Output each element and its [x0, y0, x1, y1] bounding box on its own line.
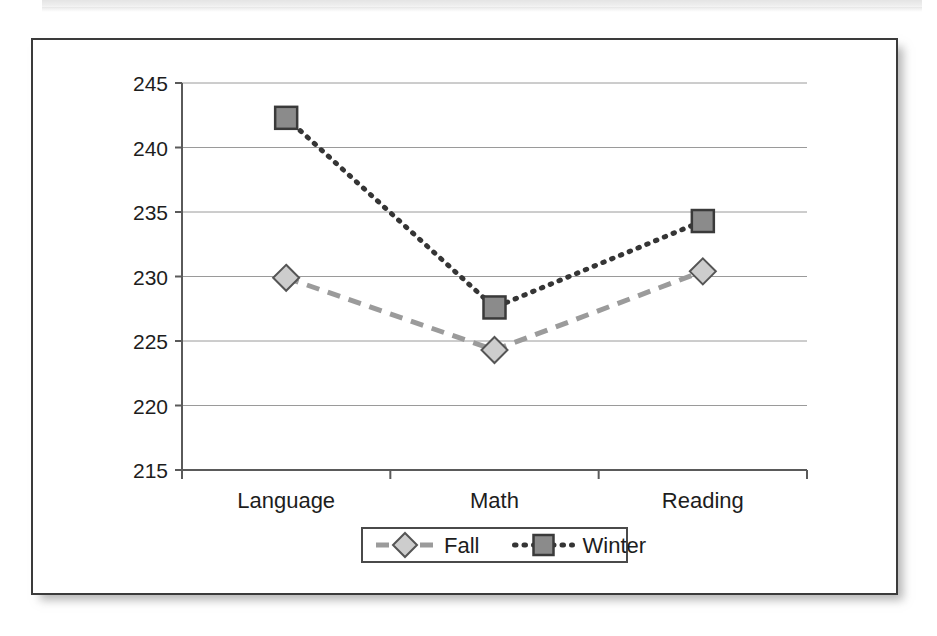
series-line-winter: [286, 118, 703, 308]
line-chart: 215220225230235240245 LanguageMathReadin…: [33, 40, 896, 593]
y-axis-ticks: [175, 83, 182, 470]
x-axis-ticks: [182, 470, 807, 479]
y-tick-label: 220: [133, 395, 168, 418]
page-root: 215220225230235240245 LanguageMathReadin…: [0, 0, 937, 636]
y-axis-tick-labels: 215220225230235240245: [133, 72, 168, 482]
legend-label-winter: Winter: [583, 533, 647, 558]
data-point-fall-reading: [690, 258, 716, 284]
x-category-label: Math: [470, 488, 519, 513]
data-point-winter-math: [484, 296, 506, 318]
data-point-winter-reading: [692, 210, 714, 232]
chart-canvas: 215220225230235240245 LanguageMathReadin…: [33, 40, 896, 593]
x-category-label: Language: [237, 488, 335, 513]
x-category-label: Reading: [662, 488, 744, 513]
data-point-winter-language: [275, 107, 297, 129]
chart-legend[interactable]: FallWinter: [362, 528, 646, 562]
y-tick-label: 245: [133, 72, 168, 95]
y-tick-label: 230: [133, 266, 168, 289]
axes: [175, 83, 807, 479]
y-tick-label: 225: [133, 330, 168, 353]
y-tick-label: 215: [133, 459, 168, 482]
scan-artifact-band: [42, 0, 922, 8]
y-tick-label: 235: [133, 201, 168, 224]
y-tick-label: 240: [133, 137, 168, 160]
legend-marker-winter: [534, 535, 554, 555]
chart-figure-frame: 215220225230235240245 LanguageMathReadin…: [31, 38, 898, 595]
series-markers: [273, 107, 716, 363]
x-axis-category-labels: LanguageMathReading: [237, 488, 744, 513]
data-point-fall-language: [273, 265, 299, 291]
legend-label-fall: Fall: [444, 533, 479, 558]
